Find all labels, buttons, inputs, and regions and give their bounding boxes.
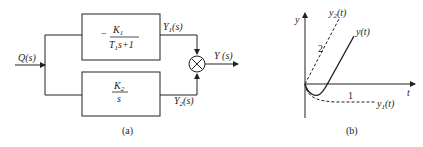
- bottom-denominator: s: [117, 93, 121, 104]
- output-label: Y (s): [214, 50, 233, 62]
- asymptote-1-label: 1: [348, 90, 353, 101]
- y1-curve-label: y1(t): [376, 98, 395, 111]
- y2-label: Y2(s): [174, 95, 194, 108]
- caption-b: (b): [346, 125, 358, 137]
- curve-y1: [305, 84, 375, 102]
- caption-a: (a): [122, 125, 133, 137]
- input-label: Q(s): [18, 52, 36, 64]
- y2-path: [160, 74, 197, 95]
- curve-y: [305, 36, 354, 95]
- t-axis-label: t: [407, 87, 410, 98]
- y-axis-label: y: [294, 14, 300, 25]
- top-denominator: T1s+1: [109, 39, 134, 52]
- top-numerator: K1: [112, 24, 123, 37]
- bottom-numerator: K2: [113, 80, 125, 93]
- y-curve-label: y(t): [355, 26, 371, 38]
- block-diagram-figure: Q(s) − K1 T1s+1 K2 s Y1(s) Y2(s) Y (s) (…: [0, 0, 423, 147]
- summing-junction-icon: [189, 56, 205, 72]
- bottom-transfer-block: [82, 72, 160, 116]
- y1-label: Y1(s): [163, 21, 183, 34]
- panel-b: y t y2(t) 2 y(t) 1 y1(t) (b): [294, 7, 415, 137]
- negative-sign: −: [101, 28, 107, 39]
- y2-curve-label: y2(t): [328, 7, 347, 20]
- slope-2-label: 2: [318, 43, 323, 54]
- panel-a: Q(s) − K1 T1s+1 K2 s Y1(s) Y2(s) Y (s) (…: [15, 14, 238, 137]
- y1-path: [160, 35, 197, 54]
